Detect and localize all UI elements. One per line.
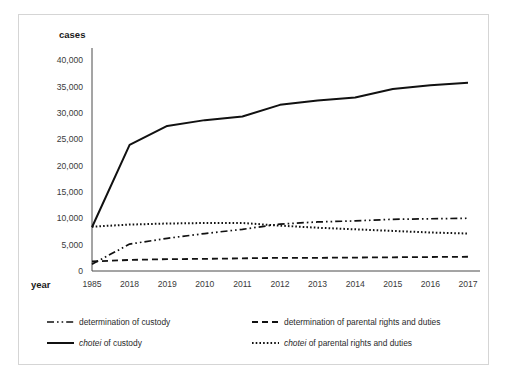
x-tick-label: 2014 bbox=[346, 279, 365, 289]
legend-item-determination-of-parental-rights-and-duties: determination of parental rights and dut… bbox=[252, 317, 440, 327]
x-tick-label: 1985 bbox=[82, 279, 101, 289]
x-tick-label: 2015 bbox=[383, 279, 402, 289]
legend-label: determination of parental rights and dut… bbox=[284, 317, 440, 327]
chart-figure: 05,00010,00015,00020,00025,00030,00035,0… bbox=[0, 0, 506, 377]
legend-label-text: of parental rights and duties bbox=[306, 338, 412, 348]
legend-item-chotei-of-custody: chotei of custody bbox=[47, 338, 143, 348]
y-tick-label: 20,000 bbox=[57, 161, 84, 171]
x-tick-label: 2017 bbox=[458, 279, 477, 289]
legend-label: determination of custody bbox=[79, 317, 171, 327]
legend-label-italic: chotei bbox=[284, 338, 307, 348]
y-tick-label: 10,000 bbox=[57, 213, 84, 223]
y-tick-label: 0 bbox=[78, 266, 83, 276]
line-chart: 05,00010,00015,00020,00025,00030,00035,0… bbox=[0, 0, 506, 377]
x-tick-label: 2010 bbox=[195, 279, 214, 289]
legend-label: chotei of parental rights and duties bbox=[284, 338, 412, 348]
x-tick-label: 2019 bbox=[158, 279, 177, 289]
y-tick-label: 5,000 bbox=[61, 240, 83, 250]
legend-item-determination-of-custody: determination of custody bbox=[47, 317, 171, 327]
y-tick-label: 30,000 bbox=[57, 108, 84, 118]
legend-label-italic: chotei bbox=[79, 338, 102, 348]
x-tick-label: 2012 bbox=[270, 279, 289, 289]
y-tick-label: 35,000 bbox=[57, 82, 84, 92]
legend-label-text: of custody bbox=[101, 338, 142, 348]
series-line-chotei-of-custody bbox=[92, 83, 468, 228]
y-tick-label: 40,000 bbox=[57, 55, 84, 65]
x-tick-label: 2018 bbox=[120, 279, 139, 289]
legend-label: chotei of custody bbox=[79, 338, 143, 348]
y-axis-title: cases bbox=[59, 29, 85, 40]
x-tick-label: 2016 bbox=[421, 279, 440, 289]
x-axis-title: year bbox=[31, 279, 51, 290]
series-line-determination-of-parental-rights-and-duties bbox=[92, 257, 468, 262]
x-tick-label: 2011 bbox=[233, 279, 252, 289]
x-tick-label: 2013 bbox=[308, 279, 327, 289]
y-tick-label: 25,000 bbox=[57, 134, 84, 144]
y-tick-label: 15,000 bbox=[57, 187, 84, 197]
series-line-determination-of-custody bbox=[92, 218, 468, 264]
legend-item-chotei-of-parental-rights-and-duties: chotei of parental rights and duties bbox=[252, 338, 412, 348]
